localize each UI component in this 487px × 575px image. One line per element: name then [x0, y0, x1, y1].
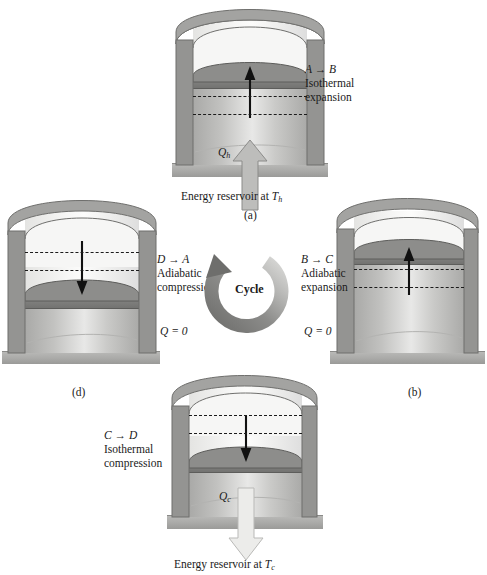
panel-a-process-label: A → B Isothermal expansion [305, 62, 354, 104]
panel-a-reservoir-label: Energy reservoir at Th [181, 190, 282, 204]
panel-c-process-arrow-text: C → D [104, 428, 162, 442]
panel-c-isothermal-compression: Qc [165, 370, 325, 570]
panel-d-process-label: D → A Adiabatic compression [157, 252, 215, 294]
panel-a-process-name-line2: expansion [305, 90, 354, 104]
panel-b-id: (b) [408, 386, 421, 398]
panel-b-vector-overlay [330, 193, 485, 383]
panel-c-dashed-line-upper [189, 415, 302, 416]
panel-d-process-arrow-text: D → A [157, 252, 215, 266]
panel-d-process-name-line2: compression [157, 280, 215, 294]
panel-c-process-name-line1: Isothermal [104, 442, 162, 456]
panel-d-adiabatic-compression [2, 193, 162, 383]
panel-b-adiabatic-expansion [330, 193, 485, 383]
panel-a-process-arrow-text: A → B [305, 62, 354, 76]
panel-d-dashed-line-lower [25, 270, 139, 271]
panel-a-dashed-line-lower [193, 114, 307, 115]
panel-a-id: (a) [244, 209, 257, 221]
panel-a-dashed-line-upper [193, 96, 307, 97]
panel-a-process-name-line1: Isothermal [305, 76, 354, 90]
panel-b-process-name-line2: expansion [301, 280, 348, 294]
panel-d-id: (d) [72, 386, 85, 398]
panel-b-process-name-line1: Adiabatic [301, 266, 348, 280]
panel-d-process-name-line1: Adiabatic [157, 266, 215, 280]
panel-c-vector-overlay [165, 370, 325, 570]
panel-b-q-note: Q = 0 [304, 324, 332, 338]
panel-b-dashed-line-lower [354, 287, 464, 288]
panel-d-vector-overlay [2, 193, 162, 383]
panel-d-q-note: Q = 0 [160, 324, 188, 338]
panel-c-reservoir-label: Energy reservoir at Tc [174, 558, 275, 572]
panel-b-process-label: B → C Adiabatic expansion [301, 252, 348, 294]
panel-c-dashed-line-lower [189, 433, 302, 434]
panel-b-dashed-line-upper [354, 269, 464, 270]
panel-d-dashed-line-upper [25, 252, 139, 253]
cycle-label: Cycle [235, 282, 264, 297]
panel-b-process-arrow-text: B → C [301, 252, 348, 266]
panel-c-process-label: C → D Isothermal compression [104, 428, 162, 470]
panel-c-process-name-line2: compression [104, 456, 162, 470]
panel-c-heat-label: Qc [219, 490, 231, 504]
panel-a-heat-label: Qh [218, 146, 230, 160]
